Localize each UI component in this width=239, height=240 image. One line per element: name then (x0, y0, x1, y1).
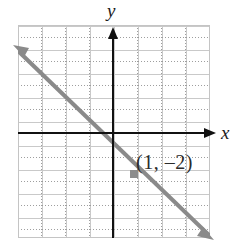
graph-overlay (0, 0, 239, 240)
x-axis-arrowhead (204, 128, 216, 138)
y-axis-arrowhead (108, 27, 118, 39)
y-axis-label: y (107, 1, 115, 20)
x-axis-label: x (221, 123, 229, 142)
point-coordinate-label: (1, –2) (136, 152, 193, 172)
coordinate-plane-figure: y x (1, –2) (0, 0, 239, 240)
line-arrowhead-lower-right (197, 227, 214, 240)
